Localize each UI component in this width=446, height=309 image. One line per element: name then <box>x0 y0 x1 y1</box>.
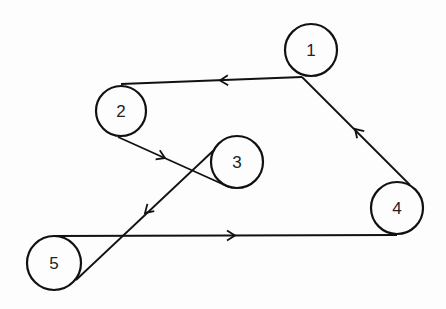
belt-segment-4-to-1 <box>302 77 410 185</box>
pulley-label: 2 <box>116 102 125 121</box>
belt-segment-1-to-2 <box>121 75 302 85</box>
belt-line <box>118 137 229 187</box>
belt-diagram: 12345 <box>0 0 446 309</box>
pulley-1: 1 <box>285 24 337 76</box>
belt-segment-3-to-5 <box>76 150 214 280</box>
pulleys: 12345 <box>27 24 423 290</box>
pulley-label: 1 <box>306 41 315 60</box>
pulley-2: 2 <box>96 86 146 136</box>
pulley-label: 3 <box>232 153 241 172</box>
pulley-5: 5 <box>27 236 81 290</box>
belt-line <box>76 150 214 280</box>
belt-segment-2-to-3 <box>118 137 229 187</box>
belt-segment-5-to-4 <box>54 231 397 241</box>
pulley-3: 3 <box>211 136 263 188</box>
belt-segments <box>54 75 410 280</box>
belt-line <box>54 235 397 236</box>
belt-line <box>121 77 302 84</box>
pulley-label: 5 <box>49 254 58 273</box>
pulley-4: 4 <box>371 182 423 234</box>
pulley-label: 4 <box>392 199 401 218</box>
